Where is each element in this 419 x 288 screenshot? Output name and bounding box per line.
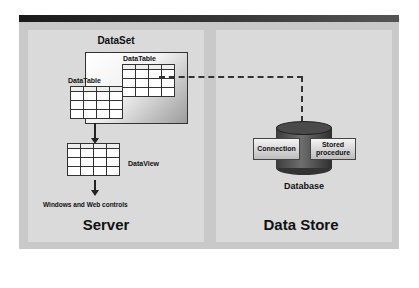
datatable-label-back: DataTable (123, 55, 156, 62)
data-store-title: Data Store (213, 216, 389, 233)
database-label: Database (284, 181, 324, 191)
database-cylinder-top (276, 121, 332, 135)
stored-procedure-tag: Stored procedure (310, 138, 356, 160)
datatable-grid-back (122, 64, 175, 97)
datatable-grid-front (70, 86, 123, 119)
connection-tag: Connection (253, 138, 300, 160)
dataview-grid (67, 143, 120, 176)
server-title: Server (18, 216, 194, 233)
arrowhead-icon (91, 190, 99, 196)
server-panel: DataSet DataTable DataTable DataView Win… (28, 30, 204, 242)
dashed-connector-horizontal (159, 76, 303, 78)
header-bar (19, 15, 399, 22)
dashed-connector-vertical (301, 76, 303, 122)
dataview-label: DataView (128, 160, 159, 167)
datatable-label-front: DataTable (68, 77, 101, 84)
controls-label: Windows and Web controls (43, 201, 128, 208)
dataset-label: DataSet (28, 35, 204, 46)
